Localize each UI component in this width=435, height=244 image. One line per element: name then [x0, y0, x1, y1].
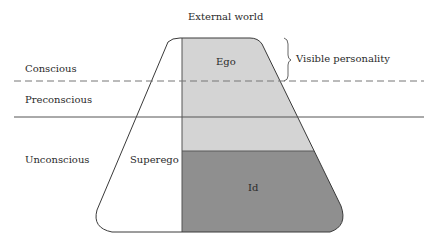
id-region	[182, 151, 382, 241]
id-label: Id	[248, 182, 258, 194]
iceberg-diagram	[0, 0, 435, 244]
ego-label: Ego	[216, 56, 236, 68]
conscious-label: Conscious	[25, 63, 77, 75]
visible-personality-label: Visible personality	[296, 53, 390, 65]
preconscious-label: Preconscious	[25, 94, 92, 106]
ego-region	[182, 30, 382, 152]
unconscious-label: Unconscious	[25, 154, 89, 166]
external-world-label: External world	[188, 11, 263, 23]
superego-label: Superego	[130, 154, 179, 166]
brace-icon	[284, 38, 291, 81]
